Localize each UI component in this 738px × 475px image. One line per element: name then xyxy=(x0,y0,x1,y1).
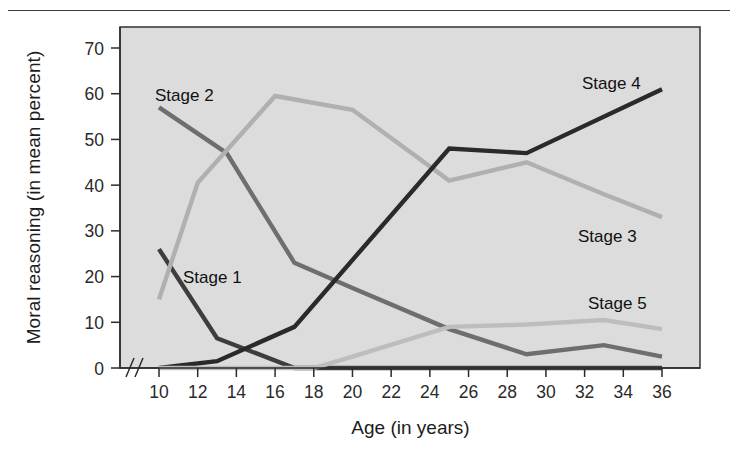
series-label-stage-4: Stage 4 xyxy=(582,74,641,93)
y-tick-label: 10 xyxy=(85,313,105,333)
x-tick-label: 24 xyxy=(420,382,440,402)
x-tick-label: 14 xyxy=(227,382,247,402)
series-label-stage-5: Stage 5 xyxy=(588,294,647,313)
x-tick-label: 26 xyxy=(459,382,478,402)
x-tick-label: 30 xyxy=(536,382,556,402)
series-label-stage-3: Stage 3 xyxy=(578,227,637,246)
series-label-stage-2: Stage 2 xyxy=(155,86,214,105)
line-chart: 0102030405060701012141618202224262830323… xyxy=(0,0,738,475)
x-tick-label: 18 xyxy=(304,382,323,402)
x-tick-label: 16 xyxy=(265,382,284,402)
x-tick-label: 10 xyxy=(149,382,169,402)
y-axis-title: Moral reasoning (in mean percent) xyxy=(23,51,44,345)
x-tick-label: 36 xyxy=(652,382,671,402)
x-tick-label: 32 xyxy=(575,382,594,402)
x-tick-label: 34 xyxy=(614,382,634,402)
series-label-stage-1: Stage 1 xyxy=(183,268,242,287)
y-tick-label: 70 xyxy=(85,39,105,59)
y-tick-label: 0 xyxy=(94,359,104,379)
x-axis-title: Age (in years) xyxy=(351,417,469,438)
x-tick-label: 20 xyxy=(343,382,363,402)
figure-page: 0102030405060701012141618202224262830323… xyxy=(0,0,738,475)
x-tick-label: 22 xyxy=(381,382,400,402)
y-tick-label: 60 xyxy=(85,84,105,104)
y-tick-label: 40 xyxy=(85,176,105,196)
y-tick-label: 50 xyxy=(85,130,105,150)
y-tick-label: 30 xyxy=(85,221,105,241)
x-tick-label: 12 xyxy=(188,382,207,402)
y-tick-label: 20 xyxy=(85,267,105,287)
x-tick-label: 28 xyxy=(497,382,516,402)
